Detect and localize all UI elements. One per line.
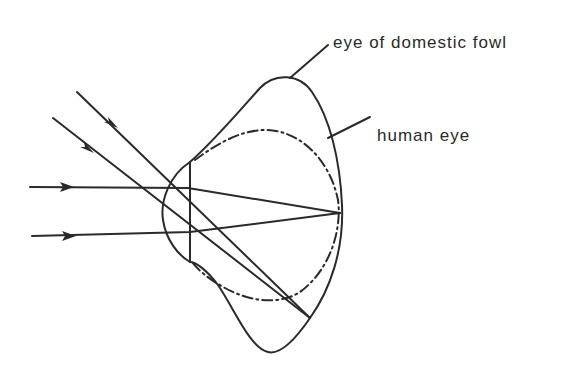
oblique-ray-lower (53, 118, 310, 318)
oblique-ray-upper (77, 92, 310, 318)
cornea-curve (162, 162, 190, 262)
human-eye-label: human eye (377, 126, 470, 146)
horizontal-ray-bottom (32, 213, 340, 236)
fowl-eye-label: eye of domestic fowl (333, 33, 507, 53)
horizontal-ray-top (30, 187, 340, 213)
eye-diagram: eye of domestic fowl human eye (0, 0, 586, 371)
arrowheads (60, 117, 118, 241)
human-leader-line (328, 117, 370, 138)
diagram-drawing (0, 0, 586, 371)
fowl-leader-line (290, 45, 328, 78)
